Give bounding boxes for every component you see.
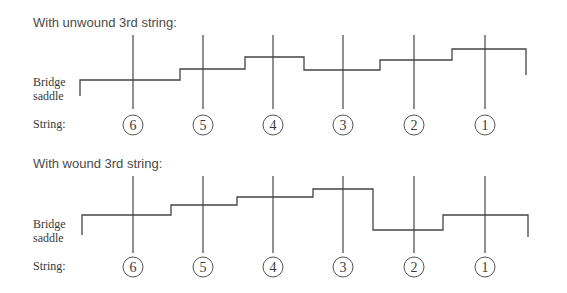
string-number: 4	[270, 260, 277, 275]
panel-title: With unwound 3rd string:	[33, 15, 177, 30]
saddle-label-line2: saddle	[33, 231, 64, 245]
string-number: 1	[482, 260, 489, 275]
panel-title: With wound 3rd string:	[33, 156, 162, 171]
string-label: String:	[33, 117, 66, 131]
panel-wound: With wound 3rd string: Bridge saddle Str…	[33, 156, 528, 277]
saddle-profile	[82, 189, 528, 237]
string-number: 3	[340, 260, 347, 275]
saddle-label-line1: Bridge	[33, 75, 66, 89]
string-number: 1	[482, 118, 489, 133]
string-number: 2	[411, 118, 418, 133]
string-number: 2	[411, 260, 418, 275]
saddle-profile	[80, 49, 526, 96]
panel-unwound: With unwound 3rd string: Bridge saddle S…	[33, 15, 526, 135]
string-number: 5	[200, 118, 207, 133]
saddle-label-line2: saddle	[33, 89, 64, 103]
saddle-compensation-diagram: With unwound 3rd string: Bridge saddle S…	[0, 0, 567, 293]
string-number: 6	[130, 118, 137, 133]
string-number-circles: 6 5 4 3 2 1	[123, 115, 495, 135]
string-label: String:	[33, 259, 66, 273]
string-number-circles: 6 5 4 3 2 1	[123, 257, 495, 277]
string-number: 6	[130, 260, 137, 275]
string-number: 4	[270, 118, 277, 133]
saddle-label-line1: Bridge	[33, 217, 66, 231]
string-lines	[133, 176, 485, 253]
string-lines	[133, 35, 485, 109]
string-number: 3	[340, 118, 347, 133]
string-number: 5	[200, 260, 207, 275]
